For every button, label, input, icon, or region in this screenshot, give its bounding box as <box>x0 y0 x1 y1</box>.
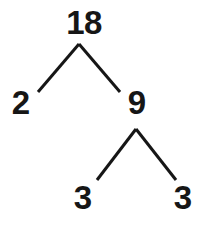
edge-18-to-2 <box>38 44 79 92</box>
factor-tree-leaf-3-left: 3 <box>70 181 96 214</box>
edge-9-to-3-right <box>136 129 176 180</box>
edge-18-to-9 <box>79 44 120 92</box>
factor-tree-figure: 18 2 9 3 3 <box>0 0 201 226</box>
edge-9-to-3-left <box>97 129 136 180</box>
factor-tree-node-2: 2 <box>8 86 34 119</box>
factor-tree-leaf-3-right: 3 <box>170 181 196 214</box>
factor-tree-node-9: 9 <box>124 86 150 119</box>
factor-tree-node-18: 18 <box>60 6 108 39</box>
